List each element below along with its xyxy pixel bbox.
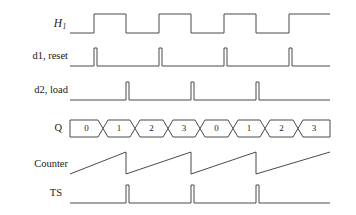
bus-value: 2 — [149, 123, 154, 133]
waveform-d2-load — [70, 82, 330, 100]
signal-label-d2-load: d2, load — [34, 84, 69, 95]
waveform-ts — [70, 185, 330, 203]
clock-trace — [70, 14, 330, 33]
pulse-trace — [70, 185, 330, 203]
waveform-d1-reset — [70, 48, 330, 66]
timing-diagram-canvas: H 1 d1, reset d2, load Q Counter TS 0123… — [0, 0, 356, 215]
signal-label-h1-subscript: 1 — [63, 22, 67, 31]
timing-diagram: H 1 d1, reset d2, load Q Counter TS 0123… — [0, 0, 356, 215]
bus-value: 0 — [84, 123, 89, 133]
waveform-h1 — [70, 14, 330, 33]
bus-value: 3 — [312, 123, 317, 133]
bus-value: 0 — [214, 123, 219, 133]
pulse-trace — [70, 48, 330, 66]
waveform-counter — [70, 152, 330, 174]
sawtooth-trace — [70, 152, 330, 174]
signal-labels: H 1 d1, reset d2, load Q Counter TS — [32, 17, 68, 199]
signal-label-ts: TS — [50, 187, 62, 198]
signal-label-d1-reset: d1, reset — [32, 50, 68, 61]
signal-label-q: Q — [54, 122, 62, 133]
signal-label-h1: H — [53, 17, 63, 29]
signal-label-counter: Counter — [34, 158, 68, 169]
bus-value: 3 — [182, 123, 187, 133]
pulse-trace — [70, 82, 330, 100]
bus-value: 1 — [117, 123, 122, 133]
bus-value: 2 — [279, 123, 284, 133]
waveform-layer: 01230123 — [70, 14, 330, 203]
bus-value: 1 — [247, 123, 252, 133]
waveform-q: 01230123 — [70, 120, 330, 137]
